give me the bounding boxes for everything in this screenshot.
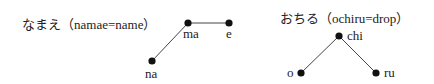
node-label-ma: ma <box>183 26 199 42</box>
node-label-na: na <box>145 66 157 82</box>
node-ru <box>372 69 379 76</box>
node-label-e: e <box>226 26 232 42</box>
node-o <box>297 69 304 76</box>
node-label-chi: chi <box>347 28 363 44</box>
node-label-ru: ru <box>384 65 395 81</box>
edge-o-chi <box>301 36 339 73</box>
node-na <box>148 57 155 64</box>
node-label-o: o <box>287 65 294 81</box>
node-chi <box>335 32 342 39</box>
pitch-accent-diagrams <box>0 0 434 84</box>
